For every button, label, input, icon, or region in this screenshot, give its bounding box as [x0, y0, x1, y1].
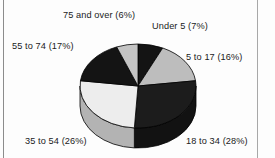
pie-chart: [76, 30, 200, 152]
slice-label-5-to-17: 5 to 17 (16%): [186, 52, 242, 63]
slice-label-35-to-54: 35 to 54 (26%): [25, 136, 87, 147]
slice-label-55-to-74: 55 to 74 (17%): [12, 41, 74, 52]
slice-label-18-to-34: 18 to 34 (28%): [186, 136, 248, 147]
slice-label-under-5: Under 5 (7%): [152, 21, 208, 32]
pie-chart-svg: [76, 30, 200, 152]
slice-label-75-and-over: 75 and over (6%): [63, 10, 135, 21]
pie-slices: [80, 44, 196, 128]
page-rule-left: [3, 0, 4, 158]
pie-chart-figure: 75 and over (6%) Under 5 (7%) 55 to 74 (…: [0, 0, 275, 158]
page-rule-right: [257, 0, 258, 158]
